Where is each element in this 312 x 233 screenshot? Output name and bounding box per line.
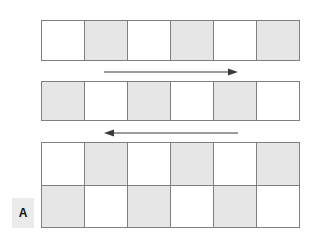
grid-cell <box>42 82 85 120</box>
grid-cell <box>85 186 128 228</box>
grid-cell <box>128 82 171 120</box>
diagram-canvas: A <box>0 0 312 233</box>
grid-cell <box>128 21 171 60</box>
panel-label: A <box>12 198 34 228</box>
grid-cell <box>257 82 299 120</box>
grid-cell <box>257 21 299 60</box>
grid-cell <box>257 186 299 228</box>
grid-cell <box>42 21 85 60</box>
top-strip <box>41 20 300 61</box>
bottom-strip-row-2 <box>42 185 299 228</box>
grid-cell <box>257 143 299 185</box>
grid-cell <box>214 186 257 228</box>
grid-cell <box>171 186 214 228</box>
top-strip-row-1 <box>42 21 299 60</box>
grid-cell <box>171 143 214 185</box>
grid-cell <box>85 21 128 60</box>
grid-cell <box>214 82 257 120</box>
grid-cell <box>171 21 214 60</box>
grid-cell <box>171 82 214 120</box>
grid-cell <box>214 21 257 60</box>
arrow-left-icon <box>104 127 238 139</box>
grid-cell <box>128 143 171 185</box>
grid-cell <box>128 186 171 228</box>
grid-cell <box>85 82 128 120</box>
grid-cell <box>42 143 85 185</box>
bottom-strip <box>41 142 300 228</box>
middle-strip <box>41 81 300 121</box>
arrow-right-icon <box>104 66 238 78</box>
grid-cell <box>214 143 257 185</box>
grid-cell <box>85 143 128 185</box>
bottom-strip-row-1 <box>42 143 299 185</box>
grid-cell <box>42 186 85 228</box>
middle-strip-row-1 <box>42 82 299 120</box>
